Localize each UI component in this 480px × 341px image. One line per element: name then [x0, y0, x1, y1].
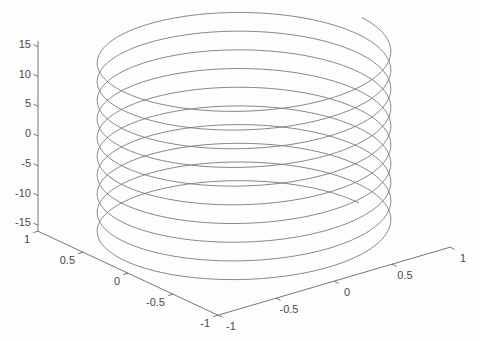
- z-tick: [33, 134, 38, 136]
- z-tick: [33, 104, 38, 106]
- x-tick-label: -0.5: [280, 303, 299, 315]
- x-tick: [450, 247, 455, 249]
- y-tick-label: -0.5: [146, 296, 165, 308]
- y-tick: [213, 315, 218, 316]
- x-tick: [392, 264, 397, 266]
- axes-3d: -1-0.500.51-1-0.500.51-15-10-5051015: [15, 38, 466, 332]
- helix-curve-layer: [97, 12, 391, 279]
- z-tick: [33, 74, 38, 76]
- z-tick-label: -15: [15, 216, 31, 228]
- z-tick-label: 15: [19, 38, 31, 50]
- y-tick-label: -1: [200, 317, 210, 329]
- helix-3d-plot: -1-0.500.51-1-0.500.51-15-10-5051015: [0, 0, 480, 341]
- y-tick: [78, 252, 83, 253]
- z-tick-label: -5: [21, 157, 31, 169]
- x-tick-label: 1: [460, 252, 466, 264]
- z-tick: [33, 223, 38, 225]
- y-tick-label: 0: [114, 275, 120, 287]
- x-tick: [276, 298, 281, 300]
- x-tick: [218, 315, 223, 317]
- z-tick-label: 10: [19, 68, 31, 80]
- y-tick-label: 0.5: [60, 254, 75, 266]
- x-tick-label: 0.5: [397, 269, 412, 281]
- helix-curve: [97, 12, 391, 279]
- y-tick-label: 1: [24, 233, 30, 245]
- z-tick: [33, 45, 38, 47]
- z-tick-label: 0: [25, 127, 31, 139]
- figure-canvas: -1-0.500.51-1-0.500.51-15-10-5051015: [0, 0, 480, 341]
- z-tick: [33, 193, 38, 195]
- y-tick: [33, 231, 38, 232]
- x-tick-label: -1: [226, 320, 236, 332]
- z-tick: [33, 164, 38, 166]
- x-tick-label: 0: [344, 286, 350, 298]
- y-tick: [123, 273, 128, 274]
- x-tick: [334, 281, 339, 283]
- z-tick-label: -10: [15, 187, 31, 199]
- y-tick: [168, 294, 173, 295]
- z-tick-label: 5: [25, 97, 31, 109]
